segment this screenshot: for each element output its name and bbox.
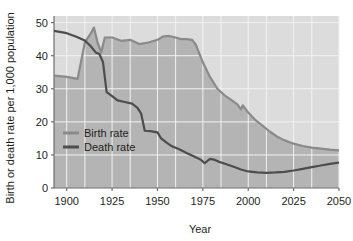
legend-label-birth-rate: Birth rate — [84, 127, 129, 139]
legend-label-death-rate: Death rate — [84, 141, 135, 153]
x-tick-label: 1900 — [54, 195, 78, 207]
x-tick-label: 2025 — [281, 195, 305, 207]
chart-figure: 010203040501900192519501975200020252050 … — [0, 0, 353, 241]
x-tick-label: 2050 — [327, 195, 351, 207]
line-chart: 010203040501900192519501975200020252050 … — [0, 0, 353, 241]
x-tick-label: 1925 — [100, 195, 124, 207]
x-tick-label: 1975 — [191, 195, 215, 207]
y-tick-label: 50 — [36, 17, 48, 29]
y-tick-label: 10 — [36, 149, 48, 161]
x-axis-title: Year — [189, 223, 212, 235]
x-tick-label: 2000 — [236, 195, 260, 207]
y-tick-label: 30 — [36, 83, 48, 95]
x-tick-label: 1950 — [145, 195, 169, 207]
y-tick-label: 20 — [36, 116, 48, 128]
y-tick-label: 0 — [42, 182, 48, 194]
y-axis-title: Birth or death rate per 1,000 population — [4, 12, 16, 203]
y-tick-label: 40 — [36, 50, 48, 62]
